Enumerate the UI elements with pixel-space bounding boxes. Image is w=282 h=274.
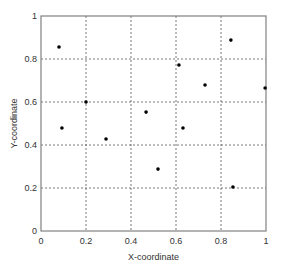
data-point bbox=[60, 126, 64, 130]
x-tick-label: 0.4 bbox=[125, 236, 138, 246]
data-point bbox=[203, 83, 207, 87]
y-axis-ticks: 00.20.40.60.81 bbox=[24, 11, 37, 236]
data-point bbox=[263, 86, 267, 90]
data-point bbox=[231, 185, 235, 189]
grid-lines bbox=[41, 16, 266, 231]
y-tick-label: 0.6 bbox=[24, 97, 37, 107]
data-point bbox=[104, 137, 108, 141]
y-tick-label: 1 bbox=[32, 11, 37, 21]
x-tick-label: 0.6 bbox=[170, 236, 183, 246]
data-point bbox=[181, 126, 185, 130]
data-point bbox=[144, 110, 148, 114]
data-point bbox=[57, 45, 61, 49]
y-tick-label: 0.4 bbox=[24, 140, 37, 150]
x-tick-label: 0 bbox=[38, 236, 43, 246]
scatter-chart: 00.20.40.60.81 00.20.40.60.81 X-coordina… bbox=[0, 0, 282, 274]
data-point bbox=[156, 167, 160, 171]
x-tick-label: 1 bbox=[263, 236, 268, 246]
x-tick-label: 0.2 bbox=[80, 236, 93, 246]
y-axis-label: Y-coordinate bbox=[9, 98, 19, 148]
y-tick-label: 0.8 bbox=[24, 54, 37, 64]
y-tick-label: 0.2 bbox=[24, 183, 37, 193]
x-tick-label: 0.8 bbox=[215, 236, 228, 246]
data-point bbox=[84, 100, 88, 104]
axes-frame bbox=[41, 16, 266, 231]
data-point bbox=[229, 38, 233, 42]
data-points bbox=[57, 38, 267, 188]
x-axis-label: X-coordinate bbox=[128, 252, 179, 262]
x-axis-ticks: 00.20.40.60.81 bbox=[38, 236, 268, 246]
y-tick-label: 0 bbox=[32, 226, 37, 236]
data-point bbox=[177, 63, 181, 67]
